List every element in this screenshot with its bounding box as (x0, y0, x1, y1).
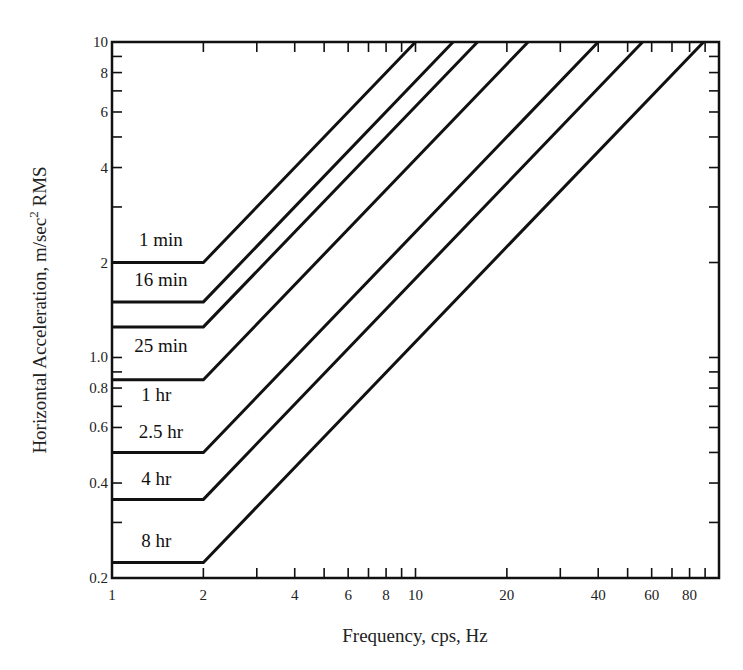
y-tick-label: 0.2 (89, 570, 108, 586)
x-tick-label: 20 (499, 587, 514, 603)
curve-label: 2.5 hr (139, 421, 184, 442)
y-tick-label: 8 (101, 65, 109, 81)
y-axis-title-main: Horizontal Acceleration, m/sec (29, 218, 50, 454)
curve-label: 8 hr (141, 530, 172, 551)
y-tick-label: 0.6 (89, 419, 108, 435)
y-tick-label: 0.8 (89, 380, 108, 396)
x-tick-label: 2 (200, 587, 208, 603)
x-tick-label: 6 (344, 587, 352, 603)
y-tick-label: 4 (101, 160, 109, 176)
exposure-curves (112, 42, 704, 563)
x-tick-label: 40 (591, 587, 606, 603)
x-tick-label: 4 (291, 587, 299, 603)
curve-labels: 1 min16 min25 min1 hr2.5 hr4 hr8 hr (134, 229, 188, 551)
y-tick-label: 10 (93, 34, 108, 50)
x-tick-label: 10 (408, 587, 423, 603)
y-axis-title-tail: RMS (29, 166, 50, 211)
y-tick-label: 1.0 (89, 349, 108, 365)
x-tick-label: 1 (108, 587, 116, 603)
y-tick-label: 0.4 (89, 475, 108, 491)
curve-label: 16 min (134, 269, 188, 290)
y-axis-title: Horizontal Acceleration, m/sec2 RMS (26, 166, 50, 453)
y-tick-label: 2 (101, 255, 109, 271)
tick-labels: 1246810204060800.20.40.60.81.0246810 (89, 34, 697, 603)
x-axis-title: Frequency, cps, Hz (342, 625, 487, 646)
curve-label: 1 min (139, 229, 183, 250)
x-tick-label: 8 (382, 587, 390, 603)
acceleration-vs-frequency-chart: 1 min16 min25 min1 hr2.5 hr4 hr8 hr 1246… (0, 0, 743, 670)
curve-label: 1 hr (141, 384, 172, 405)
curve-label: 25 min (134, 335, 188, 356)
x-tick-label: 60 (644, 587, 659, 603)
y-tick-label: 6 (101, 104, 109, 120)
curve-label: 4 hr (141, 468, 172, 489)
x-tick-label: 80 (682, 587, 697, 603)
